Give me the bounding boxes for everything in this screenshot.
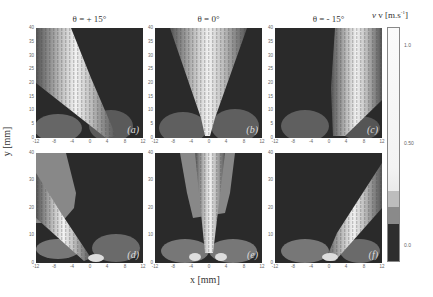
colorbar-tick-1: 1.0 xyxy=(404,42,411,48)
column-title-minus15: θ = - 15° xyxy=(275,14,382,24)
panel-e: (e) xyxy=(155,153,262,263)
colorbar xyxy=(387,27,400,262)
colorbar-label: v v [m.s-1] xyxy=(372,10,408,20)
colorbar-tick-050: 0.50 xyxy=(404,140,414,146)
panel-label-f: (f) xyxy=(369,249,378,260)
panel-label-a: (a) xyxy=(127,124,139,135)
panel-label-b: (b) xyxy=(246,124,258,135)
x-axis-label: x [mm] xyxy=(190,274,220,285)
panel-c: (c) xyxy=(275,28,382,138)
panel-f: (f) xyxy=(275,153,382,263)
panel-d: (d) xyxy=(36,153,143,263)
column-title-plus15: θ = + 15° xyxy=(36,14,143,24)
panel-label-e: (e) xyxy=(247,249,258,260)
panel-b: (b) xyxy=(155,28,262,138)
colorbar-tick-0: 0.0 xyxy=(404,242,411,248)
panel-a: (a) xyxy=(36,28,143,138)
panel-label-c: (c) xyxy=(367,124,378,135)
panel-label-d: (d) xyxy=(127,249,139,260)
y-axis-label: y [mm] xyxy=(1,127,12,157)
column-title-zero: θ = 0° xyxy=(155,14,262,24)
